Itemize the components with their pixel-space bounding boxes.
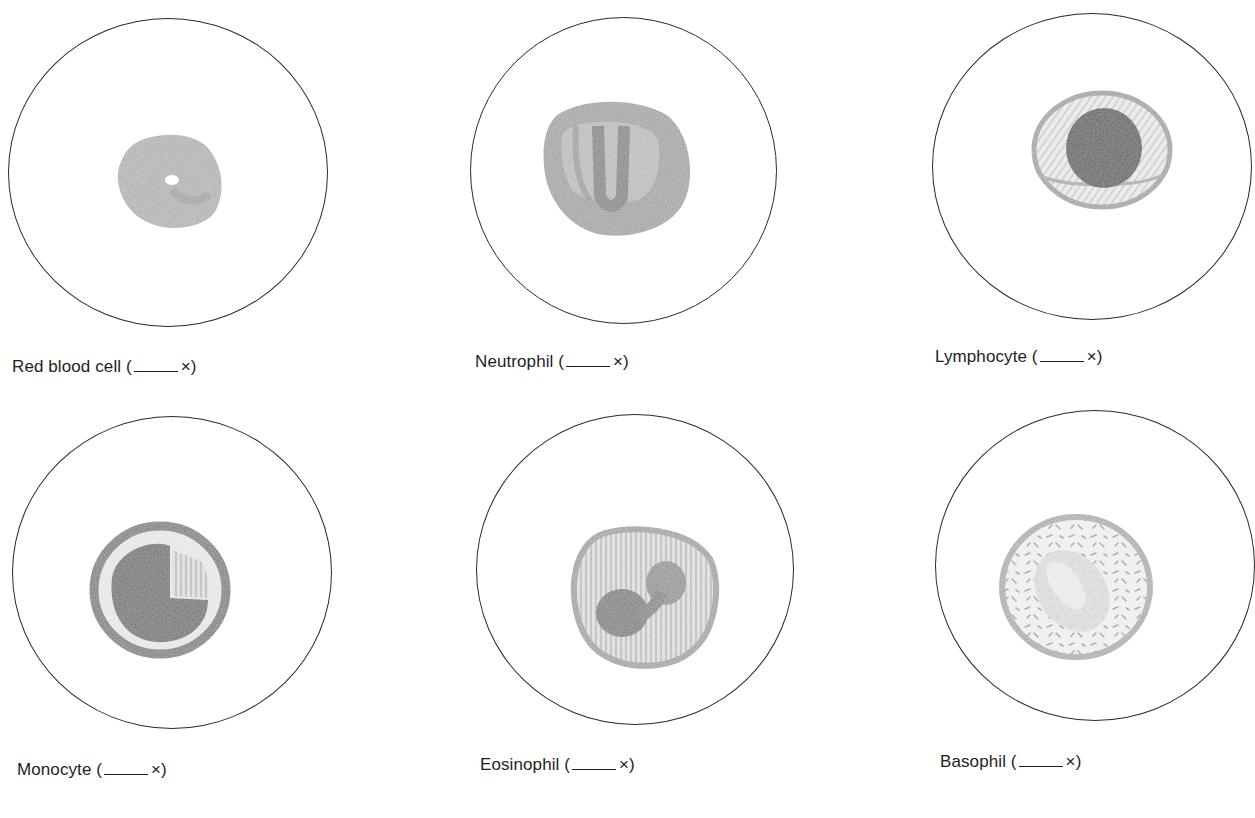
magnification-blank[interactable] <box>1019 752 1063 767</box>
cell-name-text: Neutrophil ( <box>475 352 564 371</box>
neutrophil-label: Neutrophil (×) <box>475 352 629 372</box>
cell-name-text: Lymphocyte ( <box>935 347 1038 366</box>
cell-name-text: Monocyte ( <box>17 760 102 779</box>
magnification-blank[interactable] <box>572 755 616 770</box>
eosinophil-label: Eosinophil (×) <box>480 755 635 775</box>
magnification-suffix: ×) <box>1087 347 1103 366</box>
basophil-drawing <box>1000 515 1160 663</box>
cell-name-text: Eosinophil ( <box>480 755 570 774</box>
magnification-blank[interactable] <box>566 352 610 367</box>
magnification-suffix: ×) <box>1066 752 1082 771</box>
red-blood-cell-label: Red blood cell (×) <box>12 357 197 377</box>
magnification-suffix: ×) <box>181 357 197 376</box>
monocyte-label: Monocyte (×) <box>17 760 167 780</box>
red-blood-cell-drawing <box>112 130 232 235</box>
cell-name-text: Red blood cell ( <box>12 357 132 376</box>
magnification-blank[interactable] <box>1040 347 1084 362</box>
lymphocyte-label: Lymphocyte (×) <box>935 347 1102 367</box>
magnification-blank[interactable] <box>104 760 148 775</box>
magnification-suffix: ×) <box>613 352 629 371</box>
magnification-suffix: ×) <box>151 760 167 779</box>
magnification-blank[interactable] <box>134 357 178 372</box>
monocyte-drawing <box>90 522 235 662</box>
magnification-suffix: ×) <box>619 755 635 774</box>
neutrophil-drawing <box>538 96 698 246</box>
cell-name-text: Basophil ( <box>940 752 1017 771</box>
lymphocyte-drawing <box>1030 88 1180 213</box>
eosinophil-drawing <box>570 525 720 673</box>
basophil-label: Basophil (×) <box>940 752 1081 772</box>
